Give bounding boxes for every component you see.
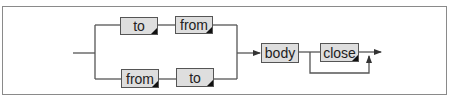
node-from-upper: from xyxy=(175,16,213,34)
node-close: close xyxy=(320,43,359,62)
keyword-corner-marker xyxy=(151,28,157,34)
node-label: from xyxy=(126,72,154,86)
keyword-corner-marker xyxy=(152,81,158,87)
node-to-lower: to xyxy=(176,68,214,87)
keyword-corner-marker xyxy=(206,27,212,33)
node-label: to xyxy=(133,19,145,33)
connector-lines xyxy=(0,0,452,100)
keyword-corner-marker xyxy=(207,80,213,86)
node-to-upper: to xyxy=(120,17,158,35)
node-label: to xyxy=(189,71,201,85)
node-label: from xyxy=(180,18,208,32)
node-body: body xyxy=(261,43,299,63)
node-label: body xyxy=(265,46,295,60)
keyword-corner-marker xyxy=(352,55,358,61)
node-label: close xyxy=(323,46,356,60)
node-from-lower: from xyxy=(121,69,159,88)
